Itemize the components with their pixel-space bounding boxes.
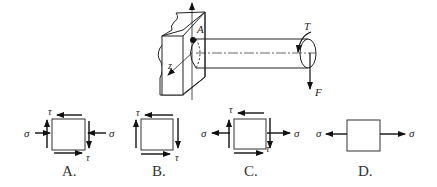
- point-a-marker: [190, 37, 196, 43]
- shaft-assembly: A z T F: [158, 3, 322, 100]
- option-a-element[interactable]: σ σ τ τ A.: [24, 106, 115, 179]
- option-b-element[interactable]: τ τ B.: [136, 107, 179, 179]
- option-c-sigma-right: σ: [294, 127, 300, 139]
- z-axis-label: z: [167, 60, 172, 71]
- option-d-element[interactable]: σ σ D.: [316, 120, 415, 179]
- option-c-tau-bottom: τ: [266, 143, 270, 154]
- force-label: F: [314, 86, 322, 98]
- option-b-label: B.: [152, 163, 166, 179]
- option-c-tau-top: τ: [229, 104, 233, 115]
- torsion-bending-diagram: A z T F σ σ τ τ A. τ τ B.: [0, 0, 437, 187]
- option-c-label: C.: [244, 163, 258, 179]
- option-a-label: A.: [62, 163, 77, 179]
- option-c-element[interactable]: σ σ τ τ C.: [201, 104, 300, 179]
- option-b-tau-top: τ: [136, 107, 140, 118]
- shaft: [191, 39, 317, 68]
- point-a-label: A: [196, 23, 204, 35]
- option-a-sigma-left: σ: [24, 127, 30, 139]
- torque-label: T: [304, 20, 311, 32]
- option-b-tau-bottom: τ: [175, 152, 179, 163]
- option-d-sigma-left: σ: [316, 127, 322, 139]
- option-c-sigma-left: σ: [201, 127, 207, 139]
- option-a-sigma-right: σ: [109, 127, 115, 139]
- option-d-sigma-right: σ: [409, 127, 415, 139]
- option-a-tau-bottom: τ: [86, 152, 90, 163]
- option-d-label: D.: [358, 163, 373, 179]
- option-a-tau-top: τ: [48, 106, 52, 117]
